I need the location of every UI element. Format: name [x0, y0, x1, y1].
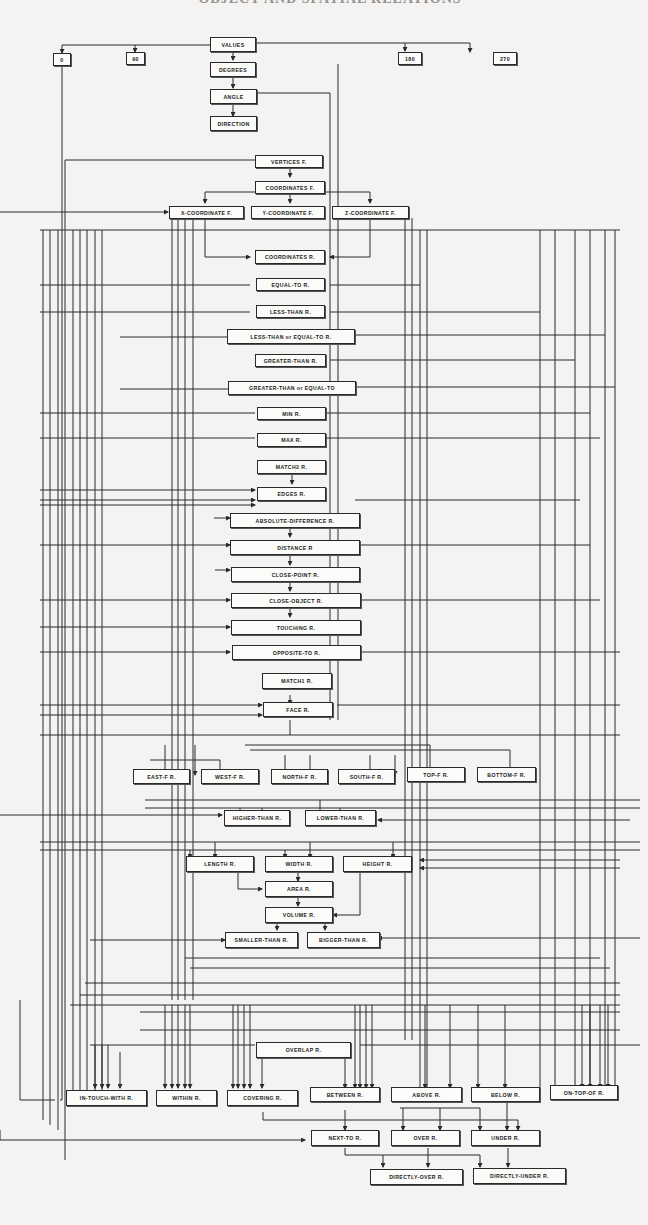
node-directly-under-r: DIRECTLY-UNDER R. — [473, 1168, 566, 1184]
node-between-r: BETWEEN R. — [310, 1087, 380, 1102]
node-match1-r: MATCH1 R. — [262, 673, 332, 689]
node-west-f-r: WEST-F R. — [201, 769, 259, 784]
node-length-r: LENGTH R. — [186, 856, 254, 872]
node-coordinates-r: COORDINATES R. — [255, 250, 325, 264]
node-min-r: MIN R. — [257, 407, 326, 420]
node-south-f-r: SOUTH-F R. — [338, 769, 395, 784]
node-face-r: FACE R. — [263, 702, 333, 717]
node-opposite-to-r: OPPOSITE-TO R. — [232, 645, 361, 660]
node-lower-than-r: LOWER-THAN R. — [305, 810, 376, 826]
node-overlap-r: OVERLAP R. — [256, 1042, 351, 1058]
node-z-coordinate-f: Z-COORDINATE F. — [332, 206, 409, 219]
node-smaller-than-r: SMALLER-THAN R. — [225, 932, 298, 948]
node-close-point-r: CLOSE-POINT R. — [231, 567, 360, 582]
node-less-than-r: LESS-THAN R. — [256, 305, 325, 318]
node-equal-to-r: EQUAL-TO R. — [256, 278, 325, 291]
node-vertices-f: VERTICES F. — [255, 155, 323, 168]
node-match2-r: MATCH2 R. — [257, 460, 326, 474]
node-in-touch-with-r: IN-TOUCH-WITH R. — [66, 1090, 147, 1106]
node-value-0: 0 — [53, 53, 71, 66]
node-degrees: DEGREES — [210, 62, 256, 77]
node-height-r: HEIGHT R. — [343, 856, 412, 872]
node-edges-r: EDGES R. — [257, 487, 326, 501]
node-covering-r: COVERING R. — [227, 1090, 298, 1106]
node-above-r: ABOVE R. — [391, 1087, 462, 1102]
node-max-r: MAX R. — [257, 433, 326, 447]
node-greater-than-or-equal-to: GREATER-THAN or EQUAL-TO — [228, 381, 356, 395]
node-direction: DIRECTION — [210, 116, 257, 131]
node-angle: ANGLE — [210, 89, 257, 104]
node-area-r: AREA R. — [265, 881, 333, 897]
node-touching-r: TOUCHING R. — [231, 620, 361, 635]
node-within-r: WITHIN R. — [156, 1090, 217, 1106]
node-over-r: OVER R. — [391, 1130, 460, 1146]
node-less-than-or-equal-to-r: LESS-THAN or EQUAL-TO R. — [227, 329, 355, 344]
node-distance-r: DISTANCE R — [230, 540, 360, 555]
node-absolute-difference-r: ABSOLUTE-DIFFERENCE R. — [230, 513, 360, 528]
node-values: VALUES — [210, 37, 256, 52]
node-bottom-f-r: BOTTOM-F R. — [477, 767, 536, 782]
node-volume-r: VOLUME R. — [265, 907, 333, 923]
node-below-r: BELOW R. — [471, 1087, 540, 1102]
node-next-to-r: NEXT-TO R. — [311, 1130, 379, 1146]
node-y-coordinate-f: Y-COORDINATE F. — [251, 206, 325, 219]
node-width-r: WIDTH R. — [265, 856, 333, 872]
node-value-90: 90 — [126, 52, 145, 65]
node-higher-than-r: HIGHER-THAN R. — [224, 810, 290, 826]
node-bigger-than-r: BIGGER-THAN R. — [307, 932, 380, 948]
node-close-object-r: CLOSE-OBJECT R. — [231, 593, 361, 608]
node-north-f-r: NORTH-F R. — [271, 769, 328, 784]
node-top-f-r: TOP-F R. — [407, 767, 465, 782]
node-greater-than-r: GREATER-THAN R. — [255, 354, 326, 367]
node-x-coordinate-f: X-COORDINATE F. — [169, 206, 244, 219]
node-directly-over-r: DIRECTLY-OVER R. — [370, 1169, 463, 1185]
node-under-r: UNDER R. — [471, 1130, 540, 1146]
node-value-270: 270 — [493, 52, 517, 65]
node-on-top-of-r: ON-TOP-OF R. — [550, 1085, 618, 1100]
node-east-f-r: EAST-F R. — [133, 769, 190, 784]
node-coordinates-f: COORDINATES F. — [255, 181, 325, 194]
node-value-180: 180 — [398, 52, 422, 65]
